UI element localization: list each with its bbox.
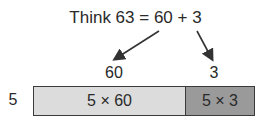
part-label-60: 60 bbox=[94, 64, 134, 82]
arrow-to-60-icon bbox=[115, 31, 159, 59]
side-label: 5 bbox=[6, 91, 20, 109]
cell-5x60-text: 5 × 60 bbox=[87, 92, 132, 110]
cell-5x3: 5 × 3 bbox=[185, 86, 255, 116]
part-label-3: 3 bbox=[204, 64, 224, 82]
cell-5x3-text: 5 × 3 bbox=[202, 92, 238, 110]
cell-5x60: 5 × 60 bbox=[33, 86, 186, 116]
arrow-to-3-icon bbox=[197, 31, 212, 59]
